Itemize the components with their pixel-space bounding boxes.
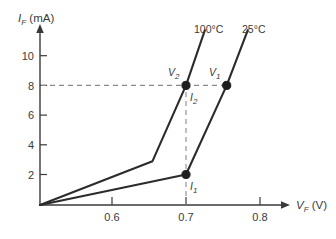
x-axis-title-unit: (V) bbox=[312, 199, 328, 211]
point-label-i1: I1 bbox=[190, 180, 197, 195]
y-tick-label-4: 4 bbox=[28, 139, 34, 151]
y-axis-title: IF (mA) bbox=[18, 12, 54, 27]
curve-100c bbox=[40, 30, 205, 205]
x-tick-label-0.8: 0.8 bbox=[252, 211, 267, 223]
point-label-v1-sub: 1 bbox=[216, 72, 220, 81]
y-tick-label-2: 2 bbox=[28, 169, 34, 181]
point-label-v2-sub: 2 bbox=[174, 72, 180, 81]
y-tick-label-8: 8 bbox=[28, 80, 34, 92]
curves-group bbox=[40, 30, 248, 205]
point-label-v2: V2 bbox=[168, 66, 180, 81]
point-label-v1: V1 bbox=[209, 66, 220, 81]
y-axis-arrowhead bbox=[36, 24, 44, 33]
x-axis-arrowhead bbox=[281, 201, 290, 209]
chart-svg: 2 4 6 8 10 0.6 0.7 0.8 IF (mA) VF (V) bbox=[0, 0, 336, 239]
x-tick-label-0.7: 0.7 bbox=[178, 211, 193, 223]
x-tick-label-0.6: 0.6 bbox=[104, 211, 119, 223]
diode-forward-characteristic-chart: 2 4 6 8 10 0.6 0.7 0.8 IF (mA) VF (V) bbox=[0, 0, 336, 239]
marker-v2-point bbox=[182, 81, 190, 89]
marker-i1-point bbox=[182, 170, 190, 178]
curve-label-25c: 25°C bbox=[242, 23, 266, 35]
x-axis-title: VF (V) bbox=[296, 199, 327, 214]
y-axis-title-unit: (mA) bbox=[29, 12, 54, 24]
y-tick-label-10: 10 bbox=[22, 50, 34, 62]
axis-titles-group: IF (mA) VF (V) bbox=[18, 12, 327, 214]
y-tick-label-6: 6 bbox=[28, 109, 34, 121]
curve-25c bbox=[40, 30, 248, 205]
marker-v1-point bbox=[223, 81, 231, 89]
curve-label-100c: 100°C bbox=[194, 23, 224, 35]
curve-labels-group: 100°C 25°C bbox=[194, 23, 266, 35]
axes-group bbox=[36, 24, 290, 209]
point-label-i2: I2 bbox=[190, 91, 198, 106]
point-label-i1-sub: 1 bbox=[193, 186, 197, 195]
y-ticks-group: 2 4 6 8 10 bbox=[22, 50, 47, 181]
point-label-i2-sub: 2 bbox=[192, 97, 198, 106]
